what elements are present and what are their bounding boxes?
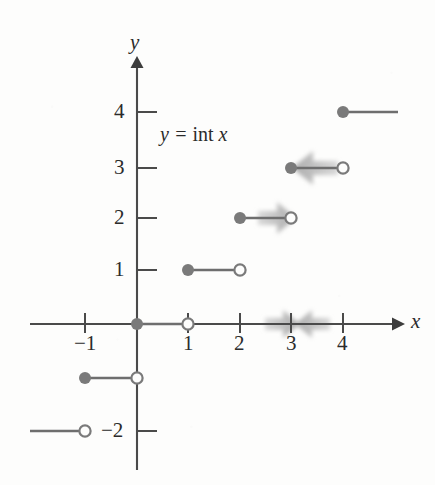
x-tick-label-4: 4 xyxy=(337,333,348,354)
closed-dot-x-3-y-3 xyxy=(285,162,297,174)
y-tick-label--2: −2 xyxy=(101,420,123,441)
y-tick-label-3: 3 xyxy=(114,157,125,178)
annotation-func: int xyxy=(192,123,213,145)
limit-arrows-group xyxy=(258,151,338,338)
x-axis-arrowhead-icon xyxy=(392,318,405,331)
function-annotation: y = int x xyxy=(160,124,227,144)
annotation-arg: x xyxy=(214,123,228,145)
annotation-lhs: y = xyxy=(160,123,192,145)
open-dot-x-4-y-3 xyxy=(337,162,348,173)
y-tick-label-4: 4 xyxy=(114,101,125,122)
closed-endpoints-group xyxy=(79,106,349,384)
x-tick-label-3: 3 xyxy=(286,333,297,354)
x-tick-label--1: −1 xyxy=(74,333,96,354)
y-axis-label: y xyxy=(130,32,139,53)
closed-dot-x-4-y-4 xyxy=(337,106,349,118)
x-tick-label-2: 2 xyxy=(234,333,245,354)
open-dot-x-0-y--1 xyxy=(131,372,142,383)
open-endpoints-group xyxy=(79,162,348,436)
figure-canvas: y x y = int x −1 1 2 3 4 4 3 2 1 −2 xyxy=(0,0,435,485)
y-tick-label-2: 2 xyxy=(114,207,125,228)
y-tick-label-1: 1 xyxy=(114,259,125,280)
axes-group xyxy=(30,56,405,470)
closed-dot-x--1-y--1 xyxy=(79,372,91,384)
closed-dot-x-0-y-0 xyxy=(131,318,143,330)
step-function-plot xyxy=(0,0,435,485)
closed-dot-x-2-y-2 xyxy=(234,212,246,224)
open-dot-x-2-y-1 xyxy=(234,264,245,275)
open-dot-x--1-y--2 xyxy=(79,425,90,436)
y-axis-arrowhead-icon xyxy=(131,56,144,68)
x-axis-label: x xyxy=(411,311,420,332)
closed-dot-x-1-y-1 xyxy=(182,264,194,276)
open-dot-x-3-y-2 xyxy=(285,212,296,223)
x-tick-label-1: 1 xyxy=(183,333,194,354)
open-dot-x-1-y-0 xyxy=(182,318,193,329)
